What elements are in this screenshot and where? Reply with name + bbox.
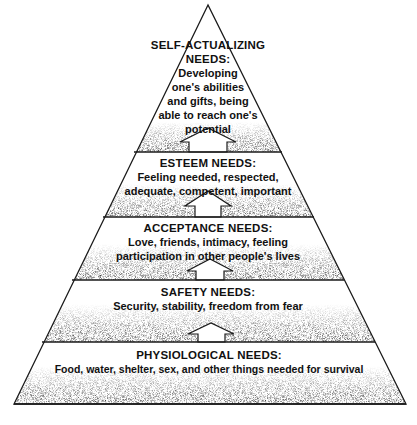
level-description: Food, water, shelter, sex, and other thi… [18, 362, 400, 376]
level-title: SAFETY NEEDS: [58, 285, 358, 299]
level-description: Love, friends, intimacy, feeling [68, 235, 348, 249]
level-title: ESTEEM NEEDS: [98, 156, 318, 170]
level-description: one's abilities [138, 80, 278, 94]
level-title: SELF-ACTUALIZING [138, 38, 278, 52]
level-description: and gifts, being [138, 94, 278, 108]
level-description: Developing [138, 66, 278, 80]
level-safety: SAFETY NEEDS: Security, stability, freed… [58, 285, 358, 313]
level-description: potential [138, 122, 278, 136]
level-description: participation in other people's lives [68, 249, 348, 263]
level-description: able to reach one's [138, 108, 278, 122]
level-title: PHYSIOLOGICAL NEEDS: [18, 348, 400, 362]
level-acceptance: ACCEPTANCE NEEDS: Love, friends, intimac… [68, 221, 348, 263]
level-esteem: ESTEEM NEEDS: Feeling needed, respected,… [98, 156, 318, 198]
level-description: Feeling needed, respected, [98, 170, 318, 184]
level-title: ACCEPTANCE NEEDS: [68, 221, 348, 235]
level-description: adequate, competent, important [98, 184, 318, 198]
level-self-actualizing: SELF-ACTUALIZING NEEDS: Developing one's… [138, 38, 278, 136]
level-title: NEEDS: [138, 52, 278, 66]
level-description: Security, stability, freedom from fear [58, 299, 358, 313]
level-physiological: PHYSIOLOGICAL NEEDS: Food, water, shelte… [18, 348, 400, 376]
